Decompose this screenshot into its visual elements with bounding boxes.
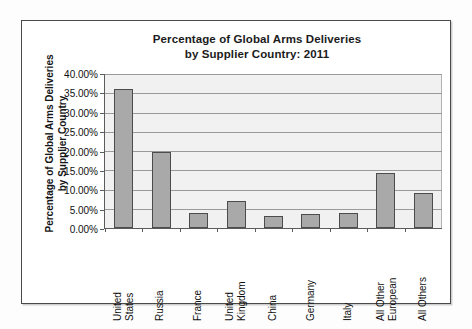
chart-title-line-1: Percentage of Global Arms Deliveries bbox=[82, 32, 432, 47]
y-axis-tick-label: 15.00% bbox=[36, 165, 104, 176]
y-axis-tick-label: 10.00% bbox=[36, 185, 104, 196]
y-axis-tick-mark bbox=[100, 171, 104, 172]
bar-russia[interactable] bbox=[152, 152, 171, 228]
y-axis-tick-mark bbox=[100, 190, 104, 191]
y-axis-tick-mark bbox=[100, 229, 104, 230]
x-axis-label-russia: Russia bbox=[155, 231, 167, 321]
y-axis-tick-mark bbox=[100, 74, 104, 75]
y-axis-tick-label: 25.00% bbox=[36, 127, 104, 138]
y-axis-tick-label: 30.00% bbox=[36, 107, 104, 118]
x-label-slot: Italy bbox=[329, 231, 367, 323]
plot-area bbox=[104, 74, 442, 229]
bar-germany[interactable] bbox=[301, 214, 320, 228]
x-axis-label-france: France bbox=[192, 231, 204, 321]
y-axis-tick-label: 5.00% bbox=[36, 204, 104, 215]
bar-china[interactable] bbox=[264, 216, 283, 228]
x-axis-label-united-kingdom: UnitedKingdom bbox=[224, 231, 247, 321]
y-axis-tick-mark bbox=[100, 152, 104, 153]
x-axis-label-china: China bbox=[267, 231, 279, 321]
bar-series bbox=[105, 74, 442, 228]
x-label-slot: Germany bbox=[292, 231, 330, 323]
y-axis-tick-label: 20.00% bbox=[36, 146, 104, 157]
bar-slot bbox=[330, 74, 367, 228]
bar-all-others[interactable] bbox=[414, 193, 433, 228]
x-axis-labels: UnitedStatesRussiaFranceUnitedKingdomChi… bbox=[104, 231, 442, 323]
chart-title: Percentage of Global Arms Deliveries by … bbox=[82, 32, 432, 62]
bar-slot bbox=[292, 74, 329, 228]
bar-italy[interactable] bbox=[339, 213, 358, 228]
x-label-slot: All OtherEuropean bbox=[367, 231, 405, 323]
y-axis-tick-mark bbox=[100, 132, 104, 133]
bar-united-states[interactable] bbox=[114, 89, 133, 228]
x-label-slot: China bbox=[254, 231, 292, 323]
bar-slot bbox=[180, 74, 217, 228]
y-axis-tick-mark bbox=[100, 113, 104, 114]
chart-figure-frame: Percentage of Global Arms Deliveries by … bbox=[21, 20, 451, 304]
x-label-slot: UnitedKingdom bbox=[217, 231, 255, 323]
y-axis-tick-label: 0.00% bbox=[36, 224, 104, 235]
y-axis-tick-mark bbox=[100, 93, 104, 94]
x-axis-label-germany: Germany bbox=[305, 231, 317, 321]
x-label-slot: France bbox=[179, 231, 217, 323]
bar-slot bbox=[255, 74, 292, 228]
bar-slot bbox=[367, 74, 404, 228]
plot-region: 0.00%5.00%10.00%15.00%20.00%25.00%30.00%… bbox=[104, 74, 442, 229]
bar-slot bbox=[142, 74, 179, 228]
y-axis-tick-label: 35.00% bbox=[36, 88, 104, 99]
y-axis-tick-mark bbox=[100, 210, 104, 211]
x-axis-label-united-states: UnitedStates bbox=[111, 231, 134, 321]
x-label-slot: UnitedStates bbox=[104, 231, 142, 323]
x-axis-label-all-other-european: All OtherEuropean bbox=[374, 231, 397, 321]
bar-slot bbox=[217, 74, 254, 228]
bar-united-kingdom[interactable] bbox=[227, 201, 246, 228]
page-background: Percentage of Global Arms Deliveries by … bbox=[0, 0, 472, 329]
x-axis-label-all-others: All Others bbox=[418, 231, 430, 321]
y-axis-tick-label: 40.00% bbox=[36, 69, 104, 80]
bar-all-other-european[interactable] bbox=[376, 173, 395, 228]
bar-france[interactable] bbox=[189, 213, 208, 228]
x-axis-label-italy: Italy bbox=[342, 231, 354, 321]
bar-slot bbox=[105, 74, 142, 228]
chart-title-line-2: by Supplier Country: 2011 bbox=[82, 47, 432, 62]
bar-slot bbox=[405, 74, 442, 228]
x-label-slot: All Others bbox=[405, 231, 443, 323]
x-label-slot: Russia bbox=[142, 231, 180, 323]
